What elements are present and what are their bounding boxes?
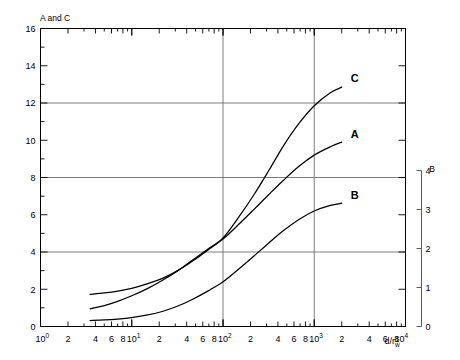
- b-axis-tick-label: 3: [426, 205, 431, 215]
- y-tick-label: 0: [30, 322, 35, 332]
- x-minor-label: 2: [65, 334, 70, 344]
- curve-label-b: B: [351, 189, 359, 201]
- curve-label-c: C: [351, 72, 359, 84]
- y-tick-label: 6: [30, 210, 35, 220]
- y-tick-label: 10: [25, 136, 35, 146]
- y-tick-label: 12: [25, 98, 35, 108]
- x-minor-label: 4: [367, 334, 372, 344]
- x-minor-label: 8: [303, 334, 308, 344]
- x-minor-label: 8: [212, 334, 217, 344]
- curve-label-a: A: [351, 128, 359, 140]
- x-minor-label: 4: [184, 334, 189, 344]
- chart-background: [0, 0, 460, 360]
- x-minor-label: 6: [291, 334, 296, 344]
- y-tick-label: 2: [30, 285, 35, 295]
- y-tick-label: 4: [30, 247, 35, 257]
- chart-figure: 1001011021031042468246824682468 02468101…: [0, 0, 460, 360]
- b-axis-tick-label: 0: [426, 322, 431, 332]
- x-minor-label: 6: [109, 334, 114, 344]
- y-tick-label: 8: [30, 173, 35, 183]
- log-linear-line-chart: 1001011021031042468246824682468 02468101…: [0, 0, 460, 360]
- y-tick-label: 16: [25, 24, 35, 34]
- x-minor-label: 4: [93, 334, 98, 344]
- left-axis-title: A and C: [40, 13, 70, 23]
- x-minor-label: 2: [339, 334, 344, 344]
- b-axis-tick-label: 1: [426, 283, 431, 293]
- x-minor-label: 2: [248, 334, 253, 344]
- b-axis-tick-label: 2: [426, 244, 431, 254]
- right-axis-title: B: [429, 164, 435, 174]
- x-minor-label: 4: [275, 334, 280, 344]
- x-minor-label: 2: [157, 334, 162, 344]
- x-minor-label: 6: [200, 334, 205, 344]
- y-tick-label: 14: [25, 61, 35, 71]
- x-minor-label: 8: [120, 334, 125, 344]
